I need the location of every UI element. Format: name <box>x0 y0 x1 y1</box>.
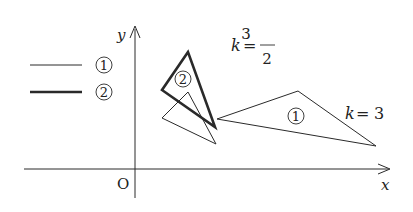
legend-marker-1: 1 <box>100 58 108 73</box>
origin-label: O <box>117 175 129 193</box>
diagram-canvas: 1 2 y x O 2 1 k = 3 2 k = 3 <box>0 0 413 212</box>
k-label-2-var: k <box>231 36 241 55</box>
k-label-1-value: 3 <box>374 104 384 123</box>
triangle-thin-small <box>162 92 216 144</box>
legend-marker-2: 2 <box>100 85 108 100</box>
triangle-2-marker: 2 <box>179 72 187 87</box>
x-axis-label: x <box>381 176 390 194</box>
triangle-2-thick <box>162 52 215 127</box>
k-label-2-num: 3 <box>241 25 251 43</box>
k-label-1-var: k <box>345 104 355 123</box>
triangle-1-marker: 1 <box>292 109 300 124</box>
y-axis-label: y <box>116 26 126 44</box>
k-label-2-den: 2 <box>262 50 272 68</box>
k-label-1-eq: = <box>356 104 369 123</box>
